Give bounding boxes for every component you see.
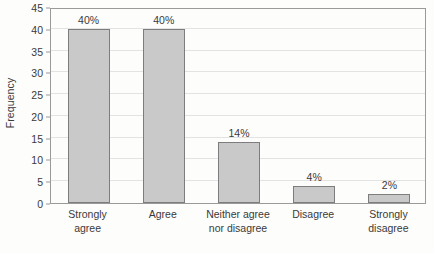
- bar-data-label: 4%: [293, 171, 335, 183]
- bar-group: 40%: [68, 9, 110, 203]
- x-category-label-line: nor disagree: [200, 222, 275, 236]
- x-category-label: Agree: [125, 208, 200, 222]
- x-category-label-line: agree: [50, 222, 125, 236]
- bar-data-label: 14%: [218, 127, 260, 139]
- x-category-label-line: disagree: [351, 222, 426, 236]
- y-axis-tick-labels: 051015202530354045: [20, 0, 46, 204]
- x-category-label: Disagree: [276, 208, 351, 222]
- y-axis-title: Frequency: [2, 0, 18, 205]
- bar-chart-figure: Frequency 051015202530354045 40%40%14%4%…: [0, 0, 434, 254]
- bar-data-label: 40%: [143, 14, 185, 26]
- y-tick-label: 20: [31, 111, 43, 123]
- bar-group: 40%: [143, 9, 185, 203]
- y-tick-label: 5: [37, 176, 43, 188]
- x-axis-category-labels: StronglyagreeAgreeNeither agreenor disag…: [50, 208, 426, 252]
- y-tick-label: 10: [31, 154, 43, 166]
- bar-data-label: 40%: [68, 14, 110, 26]
- y-tick-label: 45: [31, 2, 43, 14]
- bar-group: 14%: [218, 9, 260, 203]
- y-axis-title-text: Frequency: [4, 77, 16, 128]
- x-category-label-line: Strongly: [50, 208, 125, 222]
- bars-layer: 40%40%14%4%2%: [51, 9, 425, 203]
- bar-group: 2%: [368, 9, 410, 203]
- bar: [218, 142, 260, 203]
- bar: [143, 29, 185, 203]
- bar: [68, 29, 110, 203]
- bar: [293, 186, 335, 203]
- y-tick-label: 0: [37, 198, 43, 210]
- x-category-label-line: Agree: [125, 208, 200, 222]
- y-tick-label: 25: [31, 89, 43, 101]
- x-category-label-line: Disagree: [276, 208, 351, 222]
- x-category-label: Stronglydisagree: [351, 208, 426, 235]
- plot-area: 40%40%14%4%2%: [50, 8, 426, 204]
- x-category-label-line: Neither agree: [200, 208, 275, 222]
- x-category-label: Neither agreenor disagree: [200, 208, 275, 235]
- y-tick-label: 35: [31, 46, 43, 58]
- bar: [368, 194, 410, 203]
- bar-group: 4%: [293, 9, 335, 203]
- y-tick-label: 15: [31, 133, 43, 145]
- x-category-label-line: Strongly: [351, 208, 426, 222]
- x-category-label: Stronglyagree: [50, 208, 125, 235]
- bar-data-label: 2%: [368, 179, 410, 191]
- y-tick-label: 30: [31, 67, 43, 79]
- y-tick-label: 40: [31, 24, 43, 36]
